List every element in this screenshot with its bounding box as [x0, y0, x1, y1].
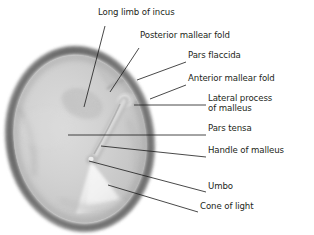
label-handle-of-malleus: Handle of malleus: [208, 146, 284, 156]
tympanic-membrane-figure: Long limb of incus Posterior mallear fol…: [0, 0, 314, 235]
label-text-line2: of malleus: [208, 104, 272, 114]
label-anterior-mallear-fold: Anterior mallear fold: [188, 74, 275, 84]
label-text-line1: Lateral process: [208, 93, 272, 103]
label-text: Cone of light: [200, 201, 254, 211]
label-text: Handle of malleus: [208, 145, 284, 155]
label-pars-tensa: Pars tensa: [208, 124, 252, 134]
label-text: Umbo: [208, 181, 233, 191]
label-text: Posterior mallear fold: [140, 30, 230, 40]
label-posterior-mallear-fold: Posterior mallear fold: [140, 31, 230, 41]
leader-anterior-mallear-fold: [150, 85, 186, 99]
label-text: Anterior mallear fold: [188, 73, 275, 83]
label-cone-of-light: Cone of light: [200, 202, 254, 212]
label-long-limb-of-incus: Long limb of incus: [98, 8, 175, 18]
label-text: Pars tensa: [208, 123, 252, 133]
label-umbo: Umbo: [208, 182, 233, 192]
label-text: Long limb of incus: [98, 7, 175, 17]
label-lateral-process-of-malleus: Lateral processof malleus: [208, 94, 272, 113]
label-pars-flaccida: Pars flaccida: [188, 51, 241, 61]
leader-pars-flaccida: [137, 62, 186, 80]
label-text: Pars flaccida: [188, 50, 241, 60]
